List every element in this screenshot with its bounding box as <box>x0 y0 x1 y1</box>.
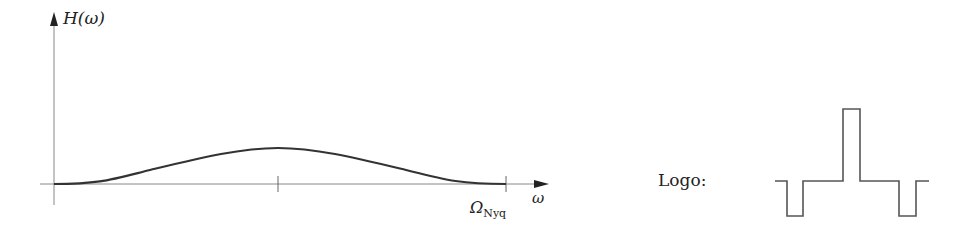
x-axis-label: ω <box>532 189 544 207</box>
frequency-response-curve <box>54 148 506 184</box>
logo-waveform-icon <box>775 109 929 216</box>
nyquist-subscript: Nyq <box>483 207 506 220</box>
y-axis-arrow-icon <box>50 12 58 26</box>
logo-label: Logo: <box>658 170 706 190</box>
y-axis-label: H(ω) <box>63 8 105 28</box>
nyquist-label: ΩNyq <box>470 198 506 217</box>
x-axis-arrow-icon <box>534 180 549 188</box>
nyquist-symbol: Ω <box>470 198 483 217</box>
